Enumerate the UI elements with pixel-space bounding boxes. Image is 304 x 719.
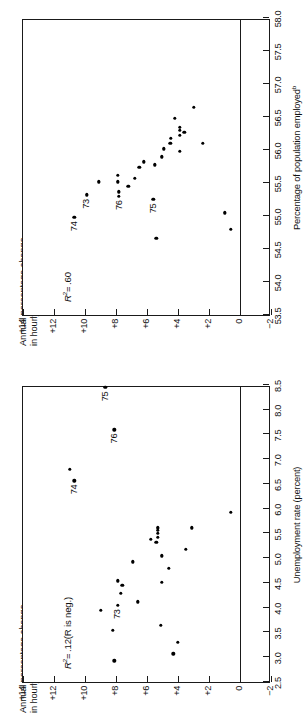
x-axis-tick <box>263 607 269 608</box>
r-squared-annotation: R2= .60 <box>62 272 73 302</box>
data-point <box>151 198 154 201</box>
data-point <box>229 511 232 514</box>
data-point <box>190 526 193 529</box>
y-axis-tick-label: +6 <box>141 319 151 349</box>
x-axis-tick <box>263 508 269 509</box>
x-axis-tick-label: 55.5 <box>273 176 283 193</box>
data-point <box>72 479 75 482</box>
y-axis-tick-label: +14 <box>17 319 27 349</box>
y-axis-tick <box>271 309 272 315</box>
data-point <box>72 216 75 219</box>
x-axis-tick-label: 3.0 <box>273 652 283 664</box>
data-point <box>142 160 145 163</box>
y-axis-tick-label: +6 <box>141 686 151 716</box>
data-point <box>68 467 71 470</box>
x-axis-tick <box>263 248 269 249</box>
x-axis-tick <box>263 409 269 410</box>
y-axis-tick-label: −2 <box>265 686 275 716</box>
data-point <box>149 538 152 541</box>
data-point <box>184 548 187 551</box>
y-axis-tick-label: +10 <box>79 319 89 349</box>
y-axis-tick <box>116 309 117 315</box>
data-point <box>111 628 114 631</box>
data-point <box>116 173 119 176</box>
y-axis-tick <box>209 676 210 682</box>
x-axis-tick-label: 7.5 <box>273 430 283 442</box>
data-point <box>138 165 141 168</box>
x-axis-tick-label: 56.0 <box>273 143 283 160</box>
data-point <box>120 584 123 587</box>
panel-population-employed: Annual percentage change in hourly compe… <box>0 0 304 352</box>
data-point <box>156 532 159 535</box>
x-axis-tick <box>263 215 269 216</box>
data-point <box>117 195 120 198</box>
x-axis-tick <box>263 50 269 51</box>
y-axis-tick-label: +8 <box>110 319 120 349</box>
data-point <box>85 193 88 196</box>
x-axis-tick-label: 6.5 <box>273 479 283 491</box>
data-point <box>201 142 204 145</box>
x-axis-tick <box>263 582 269 583</box>
y-axis-tick-label: +8 <box>110 686 120 716</box>
data-point <box>103 386 106 389</box>
x-axis-tick <box>263 116 269 117</box>
x-axis-tick <box>263 632 269 633</box>
x-axis-tick <box>263 149 269 150</box>
data-point <box>127 185 130 188</box>
y-axis-tick-label: +2 <box>203 319 213 349</box>
plot-area-employment: 74737675 <box>22 19 270 316</box>
x-axis-tick <box>263 458 269 459</box>
x-axis-tick-label: 5.5 <box>273 529 283 541</box>
y-axis-tick-label: +12 <box>48 319 58 349</box>
zero-baseline <box>240 387 241 682</box>
y-axis-tick <box>85 676 86 682</box>
data-point <box>119 591 122 594</box>
data-point <box>113 428 116 431</box>
data-point <box>153 163 156 166</box>
x-axis-tick-label: 56.5 <box>273 110 283 127</box>
y-axis-tick-label: +2 <box>203 686 213 716</box>
y-axis-tick-label: +4 <box>172 319 182 349</box>
x-axis-tick <box>263 17 269 18</box>
data-point <box>173 117 176 120</box>
x-axis-title-unemployment: Unemployment rate (percent) <box>291 375 302 675</box>
data-point <box>99 609 102 612</box>
data-point-label: 73 <box>112 609 122 619</box>
data-point-label: 76 <box>109 434 119 444</box>
y-axis-tick-label: +12 <box>48 686 58 716</box>
x-axis-tick <box>263 557 269 558</box>
x-axis-tick-label: 8.0 <box>273 405 283 417</box>
data-point <box>160 155 163 158</box>
data-point <box>172 652 175 655</box>
data-point <box>178 129 181 132</box>
x-axis-tick-label: 57.0 <box>273 77 283 94</box>
zero-baseline <box>240 20 241 315</box>
x-axis-tick-label: 55.0 <box>273 209 283 226</box>
x-axis-tick <box>263 483 269 484</box>
x-axis-tick-label: 7.0 <box>273 454 283 466</box>
y-axis-tick <box>23 676 24 682</box>
x-axis-title-text: Unemployment rate (percent) <box>291 467 302 584</box>
panel-unemployment-rate: Annual percentage change in hourly compe… <box>0 367 304 719</box>
data-point <box>160 554 163 557</box>
x-axis-tick <box>263 314 269 315</box>
x-axis-tick <box>263 681 269 682</box>
data-point <box>176 641 179 644</box>
data-point-label: 75 <box>148 204 158 214</box>
data-point <box>178 134 181 137</box>
data-point <box>116 579 119 582</box>
x-axis-title-footnote: b <box>290 86 297 89</box>
y-axis-tick <box>147 309 148 315</box>
y-axis-tick <box>178 309 179 315</box>
x-axis-tick <box>263 384 269 385</box>
data-point <box>116 604 119 607</box>
x-axis-tick-label: 54.5 <box>273 242 283 259</box>
data-point <box>178 125 181 128</box>
x-axis-tick <box>263 434 269 435</box>
y-axis-tick <box>178 676 179 682</box>
y-axis-tick-label: −2 <box>265 319 275 349</box>
y-axis-tick <box>23 309 24 315</box>
y-axis-tick-label: 0 <box>234 686 244 716</box>
data-point <box>116 180 119 183</box>
data-point <box>159 623 162 626</box>
